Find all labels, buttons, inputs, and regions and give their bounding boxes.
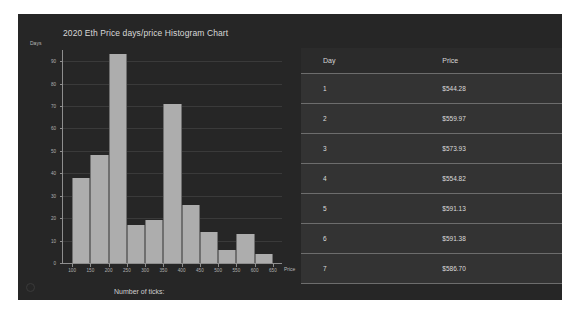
x-tick-label: 250 (123, 268, 131, 273)
histogram-bars (63, 50, 282, 263)
x-tick-label: 500 (214, 268, 222, 273)
table-body: 1$544.282$559.973$573.934$554.825$591.13… (301, 74, 562, 284)
table-row[interactable]: 2$559.97 (301, 104, 562, 134)
x-tick-mark (109, 264, 110, 267)
y-tick-mark (60, 263, 63, 264)
x-tick-label: 300 (141, 268, 149, 273)
histogram-bar (218, 250, 236, 263)
table-header: Day Price (301, 48, 562, 74)
cell-day: 4 (301, 164, 420, 194)
x-tick-label: 550 (233, 268, 241, 273)
table-row[interactable]: 4$554.82 (301, 164, 562, 194)
histogram-bar (109, 54, 127, 263)
histogram-bar (127, 225, 145, 263)
cell-price: $554.82 (420, 164, 562, 194)
cell-price: $573.93 (420, 134, 562, 164)
histogram-bar (200, 232, 218, 263)
table-row[interactable]: 5$591.13 (301, 194, 562, 224)
x-axis-title: Price (284, 266, 295, 272)
x-tick-label: 450 (196, 268, 204, 273)
histogram-bar (163, 104, 181, 263)
app-window: 2020 Eth Price days/price Histogram Char… (18, 14, 562, 300)
y-tick-label: 30 (18, 193, 61, 198)
x-tick-mark (163, 264, 164, 267)
y-axis-title: Days (30, 40, 41, 46)
ticks-control-label: Number of ticks: (114, 288, 165, 295)
histogram-bar (72, 178, 90, 263)
y-tick-label: 60 (18, 126, 61, 131)
cell-price: $544.28 (420, 74, 562, 104)
x-tick-mark (255, 264, 256, 267)
cell-price: $559.97 (420, 104, 562, 134)
table-row[interactable]: 6$591.38 (301, 224, 562, 254)
y-tick-label: 80 (18, 81, 61, 86)
x-tick-mark (218, 264, 219, 267)
x-tick-mark (72, 264, 73, 267)
chart-title: 2020 Eth Price days/price Histogram Char… (63, 28, 228, 38)
x-tick-label: 650 (269, 268, 277, 273)
x-axis-line (62, 263, 282, 264)
y-tick-label: 10 (18, 238, 61, 243)
cell-day: 1 (301, 74, 420, 104)
x-tick-label: 350 (160, 268, 168, 273)
x-tick-label: 100 (68, 268, 76, 273)
histogram-bar (255, 254, 273, 263)
table-row[interactable]: 1$544.28 (301, 74, 562, 104)
histogram-bar (145, 220, 163, 263)
x-tick-mark (273, 264, 274, 267)
x-tick-label: 600 (251, 268, 259, 273)
histogram-bar (236, 234, 254, 263)
column-header-price[interactable]: Price (420, 48, 562, 74)
x-tick-mark (145, 264, 146, 267)
cell-day: 7 (301, 254, 420, 284)
table-row[interactable]: 7$586.70 (301, 254, 562, 284)
x-tick-label: 200 (105, 268, 113, 273)
y-tick-label: 90 (18, 59, 61, 64)
x-tick-mark (182, 264, 183, 267)
status-dot-icon (26, 283, 35, 292)
column-header-day[interactable]: Day (301, 48, 420, 74)
table-header-row: Day Price (301, 48, 562, 74)
x-tick-label: 150 (87, 268, 95, 273)
histogram-chart-panel: 2020 Eth Price days/price Histogram Char… (18, 14, 304, 300)
cell-day: 5 (301, 194, 420, 224)
cell-day: 3 (301, 134, 420, 164)
histogram-bar (90, 155, 108, 263)
x-tick-mark (127, 264, 128, 267)
x-tick-mark (90, 264, 91, 267)
y-tick-label: 0 (18, 261, 61, 266)
y-tick-label: 40 (18, 171, 61, 176)
x-tick-mark (200, 264, 201, 267)
table-row[interactable]: 3$573.93 (301, 134, 562, 164)
cell-day: 2 (301, 104, 420, 134)
histogram-bar (182, 205, 200, 263)
cell-day: 6 (301, 224, 420, 254)
price-table-panel[interactable]: Day Price 1$544.282$559.973$573.934$554.… (301, 48, 562, 300)
price-table: Day Price 1$544.282$559.973$573.934$554.… (301, 48, 562, 284)
x-tick-mark (236, 264, 237, 267)
cell-price: $591.38 (420, 224, 562, 254)
y-tick-label: 20 (18, 216, 61, 221)
cell-price: $586.70 (420, 254, 562, 284)
cell-price: $591.13 (420, 194, 562, 224)
y-tick-label: 70 (18, 104, 61, 109)
x-tick-label: 400 (178, 268, 186, 273)
y-tick-label: 50 (18, 148, 61, 153)
